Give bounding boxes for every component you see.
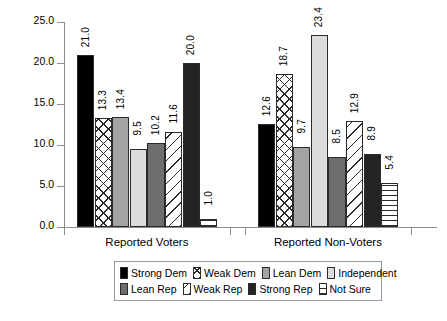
legend-item-strong-rep[interactable]: Strong Rep [248,283,312,295]
x-axis-group-separator [230,228,231,235]
legend-row-primary: Strong DemWeak DemLean DemIndependent [120,265,376,281]
bar-chart: Group Percentages 25.020.015.010.05.00.0… [0,0,447,321]
bar-value-label: 9.5 [133,121,143,136]
x-axis-line [64,227,437,228]
bar-value-label: 13.4 [116,89,126,109]
legend-label: Strong Rep [259,284,312,295]
legend-item-lean-rep[interactable]: Lean Rep [120,283,177,295]
legend-label: Not Sure [330,284,371,295]
bar-value-label: 11.6 [169,104,179,124]
x-axis-group-separator [411,228,412,235]
y-axis-tick-label: 15.0 [14,96,54,108]
bar-value-label: 5.4 [385,155,395,170]
bar-value-label: 18.7 [279,46,289,66]
bar [130,149,147,227]
bar-value-label: 20.0 [186,35,196,55]
legend-label: Weak Dem [204,268,256,279]
y-axis-tick-label: 20.0 [14,55,54,67]
legend-swatch-icon [248,283,256,295]
y-axis-tick-label: 25.0 [14,14,54,26]
legend-label: Strong Dem [131,268,187,279]
y-axis-tick: 10.0 [57,145,64,146]
legend-label: Weak Rep [194,284,243,295]
bar [112,117,129,227]
bar [165,132,182,227]
bar [276,74,293,227]
legend-swatch-icon [120,283,128,295]
y-axis-tick: 15.0 [57,104,64,105]
bar-value-label: 10.2 [151,115,161,135]
legend-swatch-icon [120,267,128,279]
legend-item-independent[interactable]: Independent [327,267,396,279]
bar-value-label: 12.6 [262,96,272,116]
bar [95,118,112,227]
y-axis-tick-label: 0.0 [14,219,54,231]
legend-swatch-icon [327,267,335,279]
y-axis-tick: 5.0 [57,186,64,187]
bar-value-label: 23.4 [314,7,324,27]
legend-swatch-icon [319,283,327,295]
bar-value-label: 1.0 [204,191,214,206]
x-axis-group-label: Reported Voters [64,236,230,248]
bar [258,124,275,227]
bar-value-label: 12.9 [350,93,360,113]
legend-swatch-icon [193,267,201,279]
legend-item-strong-dem[interactable]: Strong Dem [120,267,187,279]
legend-swatch-icon [262,267,270,279]
bar [328,157,345,227]
bar-value-label: 21.0 [81,27,91,47]
legend-item-not-sure[interactable]: Not Sure [319,283,371,295]
legend-label: Lean Dem [273,268,321,279]
y-axis-tick: 0.0 [57,227,64,228]
legend-label: Lean Rep [131,284,177,295]
x-axis-group-separator [64,228,65,235]
y-axis-tick-label: 5.0 [14,178,54,190]
bar-value-label: 8.5 [332,129,342,144]
bar-value-label: 13.3 [98,90,108,110]
bar [200,219,217,227]
legend-swatch-icon [183,283,191,295]
bar-value-label: 9.7 [297,119,307,134]
bar [183,63,200,227]
bar [346,121,363,227]
x-axis-group-label: Reported Non-Voters [245,236,411,248]
y-axis-line [64,22,65,228]
bar [147,143,164,227]
bar [381,183,398,227]
plot-area: 25.020.015.010.05.00.0 21.013.313.49.510… [64,22,437,228]
bar [311,35,328,227]
bar [364,154,381,227]
legend-label: Independent [338,268,396,279]
bar-value-label: 8.9 [367,126,377,141]
legend-item-lean-dem[interactable]: Lean Dem [262,267,321,279]
y-axis-tick-label: 10.0 [14,137,54,149]
y-axis-tick: 25.0 [57,22,64,23]
bar [77,55,94,227]
x-axis-group-separator [245,228,246,235]
legend-row-secondary: Lean RepWeak RepStrong RepNot Sure [120,281,376,297]
bar [293,147,310,227]
y-axis-tick: 20.0 [57,63,64,64]
legend-item-weak-dem[interactable]: Weak Dem [193,267,256,279]
legend: Strong DemWeak DemLean DemIndependent Le… [114,261,382,301]
legend-item-weak-rep[interactable]: Weak Rep [183,283,243,295]
